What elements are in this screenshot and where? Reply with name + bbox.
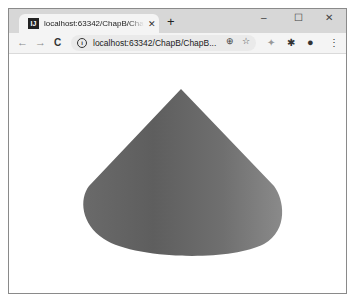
new-tab-button[interactable]: + [167, 15, 175, 29]
browser-window: IJ localhost:63342/ChapB/ChapB ✕ + – ☐ ✕… [8, 8, 347, 294]
title-bar: IJ localhost:63342/ChapB/ChapB ✕ + – ☐ ✕ [9, 9, 346, 33]
extensions-puzzle-icon[interactable]: ✱ [287, 37, 295, 48]
cone-shape [9, 54, 347, 294]
reload-button[interactable]: C [54, 37, 61, 48]
page-content [9, 54, 346, 294]
menu-icon[interactable]: ⋮ [329, 37, 339, 48]
forward-button[interactable]: → [35, 36, 46, 48]
tab-title: localhost:63342/ChapB/ChapB [44, 19, 144, 28]
browser-tab[interactable]: IJ localhost:63342/ChapB/ChapB ✕ [19, 14, 159, 33]
bookmark-star-icon[interactable]: ☆ [242, 36, 250, 46]
zoom-icon[interactable]: ⊕ [226, 36, 234, 46]
minimize-button[interactable]: – [261, 12, 267, 23]
browser-toolbar: ← → C i localhost:63342/ChapB/ChapB... ⊕… [9, 33, 346, 54]
profile-icon[interactable]: ● [307, 36, 314, 48]
back-button[interactable]: ← [17, 36, 28, 48]
maximize-button[interactable]: ☐ [294, 12, 303, 23]
info-icon[interactable]: i [77, 38, 87, 48]
intellij-favicon-icon: IJ [28, 18, 39, 29]
tab-close-icon[interactable]: ✕ [148, 19, 156, 29]
close-window-button[interactable]: ✕ [325, 12, 333, 23]
url-text[interactable]: localhost:63342/ChapB/ChapB... [93, 38, 216, 48]
address-bar[interactable]: i localhost:63342/ChapB/ChapB... ⊕ ☆ [71, 35, 256, 51]
extension-icon[interactable]: ✦ [267, 37, 275, 48]
